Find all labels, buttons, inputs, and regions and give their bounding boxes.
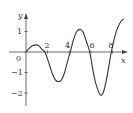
- data-curve: [26, 19, 123, 95]
- x-tick-label: 6: [90, 41, 95, 50]
- origin-label: 0: [16, 54, 21, 63]
- x-tick-label: 4: [65, 41, 70, 50]
- y-tick-label: −2: [11, 89, 23, 98]
- y-axis-label: y: [17, 11, 23, 20]
- x-axis-arrow-icon: [122, 50, 128, 54]
- y-tick-label: −1: [11, 68, 23, 77]
- x-axis-label: x: [121, 56, 126, 65]
- y-axis-arrow-icon: [24, 13, 28, 19]
- chart: y x 0 2 4 6 8 1 −1 −2: [0, 0, 133, 113]
- x-tick-label: 2: [45, 41, 50, 50]
- y-tick-label: 1: [17, 27, 22, 36]
